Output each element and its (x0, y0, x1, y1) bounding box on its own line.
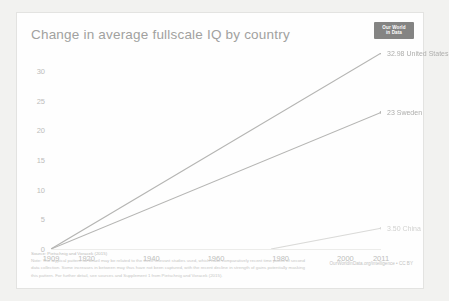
note-line-1: Note: The atypical pattern for Brazil ma… (31, 257, 413, 264)
series-line (271, 228, 381, 249)
series-label-sweden: 23 Sweden (387, 109, 422, 116)
logo-line-2: in Data (386, 31, 402, 36)
series-endpoint-marker (380, 227, 381, 230)
y-axis-tick-label: 30 (23, 66, 45, 75)
y-axis-tick-label: 15 (23, 155, 45, 164)
y-axis-tick-label: 25 (23, 96, 45, 105)
y-axis-tick-label: 20 (23, 126, 45, 135)
chart-card: Change in average fullscale IQ by countr… (16, 12, 424, 289)
series-label-united-states: 32.98 United States (387, 50, 449, 57)
page-title: Change in average fullscale IQ by countr… (31, 27, 290, 42)
y-axis-tick-label: 10 (23, 185, 45, 194)
source-line: Source: Pietschnig and Voracek (2015) (31, 250, 413, 257)
note-line-2: data collection. Some increases in betwe… (31, 264, 413, 271)
chart-footnotes: Source: Pietschnig and Voracek (2015) No… (31, 250, 413, 279)
note-line-3: this pattern. For further detail, see so… (31, 272, 413, 279)
series-line (51, 112, 381, 249)
y-axis-tick-label: 5 (23, 215, 45, 224)
chart-lines (51, 53, 381, 249)
series-line (51, 53, 381, 249)
series-label-china: 3.50 China (387, 225, 421, 232)
plot-area: 0510152025301909192019401960198020002011… (51, 53, 381, 249)
our-world-in-data-logo[interactable]: Our World in Data (374, 22, 414, 39)
